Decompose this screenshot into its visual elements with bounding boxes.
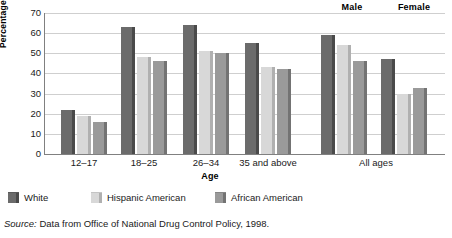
bar-side-face (348, 45, 351, 154)
y-axis-title: Percentage (0, 0, 8, 48)
gridline (45, 33, 445, 34)
y-axis-tick-label: 40 (30, 69, 41, 79)
bar (277, 69, 291, 154)
bar-side-face (392, 59, 395, 154)
bar-side-face (194, 25, 197, 154)
bar-side-face (132, 27, 135, 154)
bar-side-face (272, 67, 275, 154)
bar (93, 122, 107, 154)
bar (137, 57, 151, 154)
legend-item: Hispanic American (91, 190, 186, 204)
legend-item: White (8, 190, 48, 204)
swatch-side (99, 193, 102, 203)
plot-area: 010203040506070 (44, 13, 445, 155)
x-axis-tick-label: All ages (338, 157, 414, 168)
swatch-side (223, 193, 226, 203)
bar-side-face (364, 61, 367, 154)
bar-front-face (93, 122, 104, 154)
bar (245, 43, 259, 154)
bar-front-face (277, 69, 288, 154)
bar (121, 27, 135, 154)
legend-item-label: White (24, 192, 48, 203)
bar-side-face (88, 116, 91, 154)
bar (353, 61, 367, 154)
bar (321, 35, 335, 154)
y-axis-tick-label: 10 (30, 129, 41, 139)
source-prefix: Source: (4, 218, 37, 229)
bar (261, 67, 275, 154)
legend-item-label: African American (231, 192, 303, 203)
y-axis-tick-label: 20 (30, 109, 41, 119)
bar-side-face (332, 35, 335, 154)
bar-front-face (381, 59, 392, 154)
y-axis-tick-label: 60 (30, 28, 41, 38)
y-axis-tick-label: 0 (36, 149, 41, 159)
bar (153, 61, 167, 154)
bar (199, 51, 213, 154)
bar-front-face (77, 116, 88, 154)
swatch-front (8, 193, 16, 203)
source-text: Data from Office of National Drug Contro… (37, 218, 270, 229)
bar-front-face (215, 53, 226, 154)
y-axis-tick-label: 70 (30, 8, 41, 18)
bar-front-face (261, 67, 272, 154)
bar (61, 110, 75, 154)
bar (381, 59, 395, 154)
bar-front-face (413, 88, 424, 154)
bar-front-face (183, 25, 194, 154)
legend-color-swatch (91, 192, 102, 203)
bar (215, 53, 229, 154)
bar-front-face (137, 57, 148, 154)
bar-side-face (104, 122, 107, 154)
y-axis-tick-label: 50 (30, 49, 41, 59)
bar-chart-figure: Male Female Percentage 010203040506070 1… (0, 0, 452, 238)
bar-front-face (245, 43, 256, 154)
bar-front-face (153, 61, 164, 154)
bar-side-face (256, 43, 259, 154)
group-header-male: Male (330, 2, 374, 12)
bar-side-face (226, 53, 229, 154)
bar-side-face (210, 51, 213, 154)
bar-side-face (408, 94, 411, 154)
bar-side-face (164, 61, 167, 154)
x-axis-tick-label: 35 and above (227, 157, 309, 168)
bar-side-face (424, 88, 427, 154)
source-note: Source: Data from Office of National Dru… (4, 218, 269, 229)
bar-front-face (199, 51, 210, 154)
bar-front-face (61, 110, 72, 154)
bar-side-face (288, 69, 291, 154)
bar-side-face (72, 110, 75, 154)
legend-color-swatch (215, 192, 226, 203)
bar-front-face (337, 45, 348, 154)
bar-front-face (121, 27, 132, 154)
bar (413, 88, 427, 154)
bar-front-face (397, 94, 408, 154)
swatch-side (16, 193, 19, 203)
legend-color-swatch (8, 192, 19, 203)
legend-item: African American (215, 190, 303, 204)
bar-front-face (321, 35, 332, 154)
chart-legend: WhiteHispanic AmericanAfrican American (8, 190, 444, 206)
bar (77, 116, 91, 154)
bar-side-face (148, 57, 151, 154)
x-axis-title: Age (150, 171, 270, 181)
swatch-front (91, 193, 99, 203)
bar-front-face (353, 61, 364, 154)
bar (337, 45, 351, 154)
y-axis-tick-label: 30 (30, 89, 41, 99)
group-header-female: Female (388, 2, 440, 12)
bar (397, 94, 411, 154)
legend-item-label: Hispanic American (107, 192, 186, 203)
swatch-front (215, 193, 223, 203)
bar (183, 25, 197, 154)
gridline (45, 13, 445, 14)
